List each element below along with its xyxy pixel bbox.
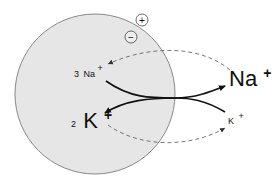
cell-membrane bbox=[15, 14, 175, 174]
negative-charge-icon: − bbox=[125, 31, 137, 43]
positive-charge-icon: + bbox=[136, 14, 148, 26]
outside-k-label: K + bbox=[228, 111, 244, 126]
pump-diagram: + − 3 Na + 2 K + Na + K + bbox=[0, 0, 275, 183]
svg-text:+: + bbox=[139, 15, 145, 26]
svg-text:−: − bbox=[128, 32, 134, 43]
outside-na-label: Na + bbox=[229, 65, 271, 91]
